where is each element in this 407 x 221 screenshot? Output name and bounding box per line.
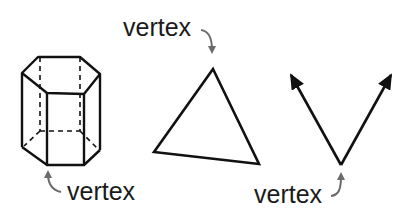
left-ray — [291, 75, 341, 165]
angle-rays — [291, 75, 391, 165]
right-ray — [341, 75, 391, 165]
prism-vertex-label: vertex — [67, 177, 136, 205]
angle-vertex-arrow — [331, 176, 341, 196]
triangle-vertex-arrow — [201, 30, 212, 50]
angle-vertex-label: vertex — [254, 180, 323, 208]
top-face — [22, 57, 100, 94]
prism-vertex-arrow — [48, 174, 61, 192]
triangle — [154, 69, 259, 164]
triangle-vertex-label: vertex — [123, 13, 192, 41]
hidden-edges — [24, 57, 98, 149]
hexagonal-prism — [22, 57, 100, 165]
vertex-diagram: vertex vertex vertex — [0, 0, 407, 221]
